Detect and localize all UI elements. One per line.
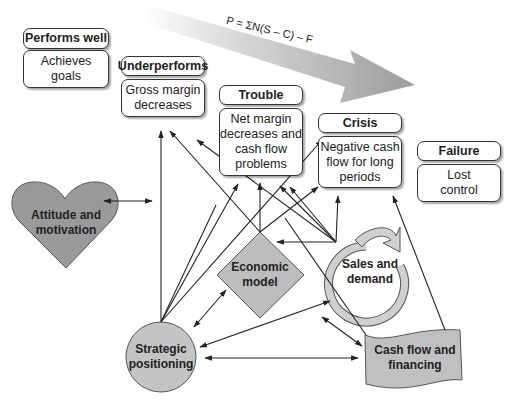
factor-economic-model-label: Economicmodel [215,260,305,290]
label-line: model [215,275,305,290]
label-line: Attitude and [14,208,118,223]
desc-line: Negative cash [320,140,399,155]
desc-line: Achieves [41,54,92,69]
stage-underperforms-title: Underperforms [121,56,205,76]
label-line: positioning [121,357,201,372]
stage-crisis-desc: Negative cashflow for longperiods [318,136,402,188]
desc-line: periods [320,170,399,185]
diagram-canvas: P = ΣN(S – C) – F Performs well Achieves… [0,0,513,407]
factor-strategic-label: Strategicpositioning [121,342,201,372]
stage-underperforms-desc: Gross margindecreases [121,79,205,117]
desc-line: Net margin [220,112,302,127]
label-line: Economic [215,260,305,275]
desc-line: control [440,183,478,198]
label-line: demand [330,272,410,287]
stage-trouble-title: Trouble [219,85,303,105]
label-line: Cash flow and [365,343,465,358]
stage-performs-well-title: Performs well [23,28,109,49]
desc-line: decreases [125,98,200,113]
stage-performs-well-desc: Achievesgoals [23,50,109,88]
desc-line: problems [220,157,302,172]
label-line: financing [365,358,465,373]
desc-line: Gross margin [125,83,200,98]
stage-failure-title: Failure [417,141,501,161]
stage-trouble-desc: Net margindecreases andcash flowproblems [219,108,303,176]
desc-line: decreases and [220,127,302,142]
stage-failure-desc: Lostcontrol [417,164,501,202]
label-line: Strategic [121,342,201,357]
factor-sales-label: Sales anddemand [330,257,410,287]
desc-line: flow for long [320,155,399,170]
label-line: motivation [14,223,118,238]
desc-line: Lost [440,168,478,183]
label-line: Sales and [330,257,410,272]
factor-attitude-label: Attitude andmotivation [14,208,118,238]
stage-crisis-title: Crisis [318,113,402,133]
desc-line: goals [41,69,92,84]
desc-line: cash flow [220,142,302,157]
factor-cash-flow-label: Cash flow andfinancing [365,343,465,373]
